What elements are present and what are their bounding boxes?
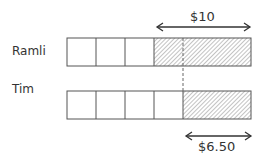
tim-hatched-part — [183, 91, 251, 119]
tim-bar — [67, 91, 251, 119]
ramli-bar — [67, 38, 251, 66]
ramli-hatched-part — [154, 38, 251, 66]
bar-model-diagram — [0, 0, 262, 163]
bottom-double-arrow-icon — [186, 132, 251, 140]
top-double-arrow-icon — [157, 23, 250, 31]
